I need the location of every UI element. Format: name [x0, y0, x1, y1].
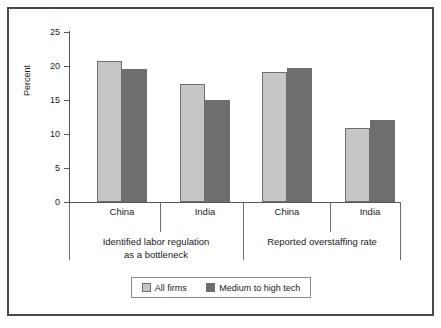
- group-label-line: as a bottleneck: [70, 248, 242, 261]
- group-label-line: Identified labor regulation: [70, 235, 242, 248]
- bar: [262, 72, 287, 202]
- bar: [180, 84, 205, 202]
- figure-container: Percent 0510152025 ChinaIndiaChinaIndiaI…: [0, 0, 441, 328]
- y-axis-tick: [64, 134, 69, 135]
- legend-item-all-firms: All firms: [142, 283, 187, 293]
- legend-item-medium-to-high-tech: Medium to high tech: [206, 283, 300, 293]
- y-axis-tick: [64, 66, 69, 67]
- bar: [122, 69, 147, 202]
- bar: [345, 128, 370, 202]
- y-axis-tick-label: 20: [30, 62, 60, 71]
- axis-separator-tick: [160, 202, 161, 232]
- group-label-line: Reported overstaffing rate: [244, 235, 400, 248]
- x-axis-category-label: China: [247, 206, 327, 218]
- bars-layer: [70, 32, 401, 202]
- axis-separator-tick: [400, 202, 401, 260]
- legend-label-medium-to-high-tech: Medium to high tech: [219, 283, 300, 293]
- y-axis-tick-label: 15: [30, 96, 60, 105]
- y-axis-tick: [64, 100, 69, 101]
- x-axis-line: [69, 202, 401, 203]
- legend-swatch-all-firms: [142, 283, 151, 292]
- bar: [370, 120, 395, 202]
- bar: [287, 68, 312, 202]
- y-axis-tick-label: 5: [30, 164, 60, 173]
- y-axis-tick-label: 10: [30, 130, 60, 139]
- y-axis-tick-label: 25: [30, 28, 60, 37]
- y-axis-tick: [64, 168, 69, 169]
- x-axis-category-label: China: [82, 206, 162, 218]
- x-axis-category-label: India: [330, 206, 410, 218]
- y-axis-tick: [64, 32, 69, 33]
- bar: [205, 100, 230, 202]
- x-axis-group-label: Identified labor regulationas a bottlene…: [70, 235, 242, 261]
- x-axis-category-label: India: [165, 206, 245, 218]
- chart-legend: All firms Medium to high tech: [131, 277, 311, 298]
- y-axis-tick-label: 0: [30, 198, 60, 207]
- bar: [97, 61, 122, 202]
- axis-separator-tick: [330, 202, 331, 232]
- x-axis-group-label: Reported overstaffing rate: [244, 235, 400, 248]
- legend-label-all-firms: All firms: [155, 283, 187, 293]
- axis-separator-tick: [243, 202, 244, 260]
- legend-swatch-medium-to-high-tech: [206, 283, 215, 292]
